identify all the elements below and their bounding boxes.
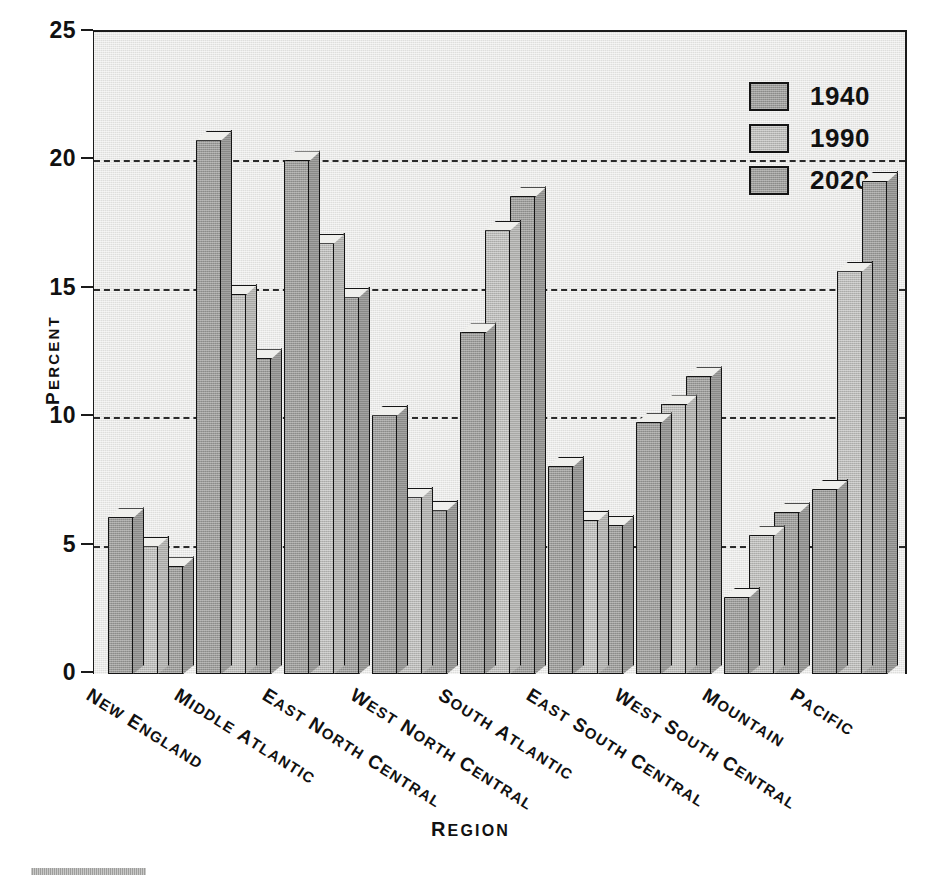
bar	[460, 332, 485, 674]
y-axis-tick	[81, 157, 93, 159]
bar-front-face	[284, 160, 309, 674]
bar	[108, 517, 133, 674]
y-axis-tick-label: 0	[0, 659, 76, 686]
bar	[812, 489, 837, 674]
bar	[548, 466, 573, 674]
y-axis-tick-label: 15	[0, 273, 76, 300]
bar-side-face	[221, 130, 232, 674]
bar-side-face	[158, 536, 169, 674]
y-axis-tick	[81, 286, 93, 288]
bar-side-face	[271, 348, 282, 674]
square-swatch-icon	[749, 82, 789, 111]
y-axis-tick	[81, 543, 93, 545]
bar-side-face	[837, 479, 848, 674]
y-axis-tick	[81, 671, 93, 673]
bar-side-face	[485, 322, 496, 674]
bar-front-face	[372, 415, 397, 674]
bar-side-face	[686, 394, 697, 674]
bar-side-face	[887, 171, 898, 674]
bar-front-face	[460, 332, 485, 674]
legend-item-label: 1940	[810, 81, 870, 112]
bar-chart-figure: PERCENT 0510152025 194019902020 NEW ENGL…	[0, 0, 941, 883]
y-axis-tick-label: 10	[0, 402, 76, 429]
bar-side-face	[661, 412, 672, 674]
bar-side-face	[862, 261, 873, 674]
bar-side-face	[334, 233, 345, 674]
bar-side-face	[598, 510, 609, 674]
square-swatch-icon	[749, 166, 789, 195]
square-swatch-icon	[749, 124, 789, 153]
bar	[196, 140, 221, 674]
bar-side-face	[623, 515, 634, 674]
bar-side-face	[749, 587, 760, 674]
legend-item: 1940	[749, 75, 919, 117]
y-axis-title: PERCENT	[42, 315, 64, 405]
x-axis-category-label: PACIFIC	[786, 684, 859, 741]
bar-front-face	[196, 140, 221, 674]
bar-side-face	[447, 500, 458, 674]
bar-side-face	[573, 456, 584, 674]
bar	[372, 415, 397, 674]
y-axis-title-text: PERCENT	[42, 315, 63, 405]
legend-item-label: 2020	[810, 165, 870, 196]
y-axis-tick-label: 5	[0, 530, 76, 557]
y-axis-tick	[81, 414, 93, 416]
bar-side-face	[799, 502, 810, 674]
bar-side-face	[535, 186, 546, 674]
plot-area: 194019902020	[94, 30, 907, 674]
x-axis-title: REGION	[0, 818, 941, 841]
bar-side-face	[510, 220, 521, 674]
bar-side-face	[774, 525, 785, 674]
bar-side-face	[397, 405, 408, 674]
bar-front-face	[812, 489, 837, 674]
bar-front-face	[636, 422, 661, 674]
bar	[636, 422, 661, 674]
bar-side-face	[422, 487, 433, 674]
bar-front-face	[548, 466, 573, 674]
bar-front-face	[724, 597, 749, 674]
bar-side-face	[359, 287, 370, 674]
y-axis-tick-label: 25	[0, 17, 76, 44]
y-axis-tick	[81, 29, 93, 31]
bar-side-face	[246, 284, 257, 674]
x-axis-title-text: REGION	[431, 818, 510, 840]
x-axis-category-label: MIDDLE ATLANTIC	[170, 684, 320, 789]
legend-item-label: 1990	[810, 123, 870, 154]
legend-item: 1990	[749, 117, 919, 159]
bar	[284, 160, 309, 674]
y-axis-tick-label: 20	[0, 145, 76, 172]
bar-front-face	[108, 517, 133, 674]
bar-side-face	[133, 507, 144, 674]
bar	[724, 597, 749, 674]
horizontal-rule-icon	[31, 868, 146, 875]
bar-side-face	[183, 556, 194, 674]
bar-side-face	[711, 366, 722, 674]
bar-side-face	[309, 150, 320, 674]
